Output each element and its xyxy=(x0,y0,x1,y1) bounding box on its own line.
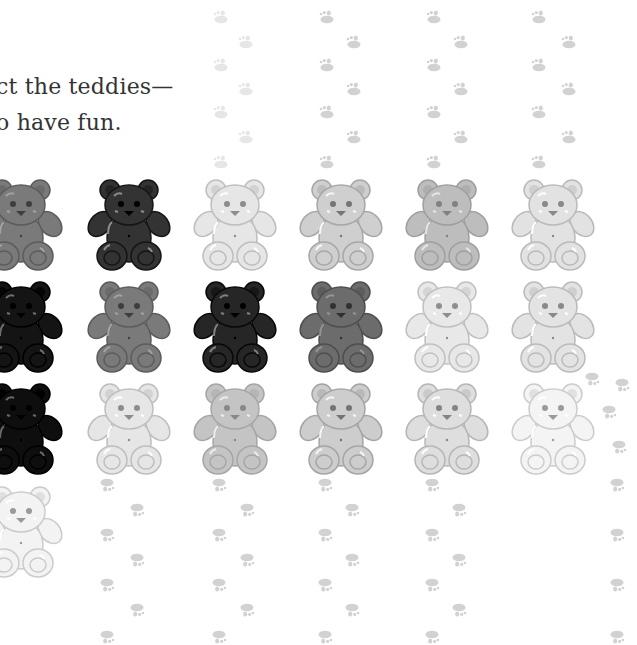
paw-print-icon xyxy=(318,58,334,72)
teddy-bear-r3-c2 xyxy=(86,382,172,476)
paw-print-icon xyxy=(425,630,441,644)
paw-print-icon xyxy=(212,58,228,72)
paw-print-icon xyxy=(318,578,334,592)
paw-print-icon xyxy=(345,503,361,517)
teddy-bear-r3-c5 xyxy=(404,382,490,476)
paw-print-icon xyxy=(240,503,256,517)
paw-print-icon xyxy=(425,105,441,119)
teddy-bear-r2-c3 xyxy=(192,280,278,374)
paw-print-icon xyxy=(100,578,116,592)
paw-print-icon xyxy=(237,130,253,144)
paw-print-icon xyxy=(318,630,334,644)
paw-print-icon xyxy=(240,603,256,617)
paw-print-icon xyxy=(452,130,468,144)
paw-print-icon xyxy=(530,155,546,169)
paw-print-icon xyxy=(212,478,228,492)
paw-print-icon xyxy=(212,528,228,542)
paw-print-icon xyxy=(318,155,334,169)
paw-print-icon xyxy=(100,630,116,644)
teddy-bear-r4-c1 xyxy=(0,485,64,579)
paw-print-icon xyxy=(425,578,441,592)
paw-print-icon xyxy=(530,10,546,24)
paw-print-icon xyxy=(318,478,334,492)
paw-print-icon xyxy=(560,35,576,49)
paw-print-icon xyxy=(100,528,116,542)
paw-print-icon xyxy=(130,603,146,617)
paw-print-icon xyxy=(212,630,228,644)
paw-print-icon xyxy=(212,105,228,119)
paw-print-icon xyxy=(602,405,618,419)
teddy-bear-r2-c6 xyxy=(510,280,596,374)
paw-print-icon xyxy=(615,378,631,392)
paw-print-icon xyxy=(452,603,468,617)
paw-print-icon xyxy=(240,553,256,567)
paw-print-icon xyxy=(345,82,361,96)
teddy-bear-r3-c1 xyxy=(0,382,64,476)
paw-print-icon xyxy=(318,10,334,24)
teddy-bear-r2-c5 xyxy=(404,280,490,374)
paw-print-icon xyxy=(130,553,146,567)
paw-print-icon xyxy=(610,478,626,492)
paw-print-icon xyxy=(345,603,361,617)
paw-print-icon xyxy=(452,82,468,96)
paw-print-icon xyxy=(612,440,628,454)
paw-print-icon xyxy=(610,528,626,542)
paw-print-icon xyxy=(425,10,441,24)
paw-print-icon xyxy=(100,478,116,492)
paw-print-icon xyxy=(530,58,546,72)
paw-print-icon xyxy=(212,578,228,592)
instruction-text-line-2: o have fun. xyxy=(0,110,122,135)
teddy-bear-r1-c2 xyxy=(86,178,172,272)
paw-print-icon xyxy=(425,58,441,72)
paw-print-icon xyxy=(345,130,361,144)
teddy-bear-r3-c6 xyxy=(510,382,596,476)
paw-print-icon xyxy=(610,630,626,644)
paw-print-icon xyxy=(425,528,441,542)
teddy-bear-r2-c2 xyxy=(86,280,172,374)
paw-print-icon xyxy=(452,35,468,49)
paw-print-icon xyxy=(345,553,361,567)
paw-print-icon xyxy=(237,82,253,96)
paw-print-icon xyxy=(425,155,441,169)
paw-print-icon xyxy=(237,35,253,49)
teddy-bear-r2-c1 xyxy=(0,280,64,374)
paw-print-icon xyxy=(318,105,334,119)
instruction-text-line-1: ct the teddies— xyxy=(0,74,174,99)
paw-print-icon xyxy=(345,35,361,49)
teddy-bear-r1-c3 xyxy=(192,178,278,272)
paw-print-icon xyxy=(610,578,626,592)
paw-print-icon xyxy=(530,105,546,119)
paw-print-icon xyxy=(130,503,146,517)
teddy-bear-r3-c4 xyxy=(298,382,384,476)
paw-print-icon xyxy=(212,10,228,24)
teddy-activity-page: ct the teddies— o have fun. xyxy=(0,0,637,645)
paw-print-icon xyxy=(560,82,576,96)
paw-print-icon xyxy=(560,130,576,144)
teddy-bear-r1-c1 xyxy=(0,178,64,272)
teddy-bear-r1-c4 xyxy=(298,178,384,272)
teddy-bear-r2-c4 xyxy=(298,280,384,374)
paw-print-icon xyxy=(425,478,441,492)
paw-print-icon xyxy=(452,553,468,567)
teddy-bear-r1-c5 xyxy=(404,178,490,272)
paw-print-icon xyxy=(452,503,468,517)
teddy-bear-r3-c3 xyxy=(192,382,278,476)
paw-print-icon xyxy=(212,155,228,169)
paw-print-icon xyxy=(318,528,334,542)
teddy-bear-r1-c6 xyxy=(510,178,596,272)
